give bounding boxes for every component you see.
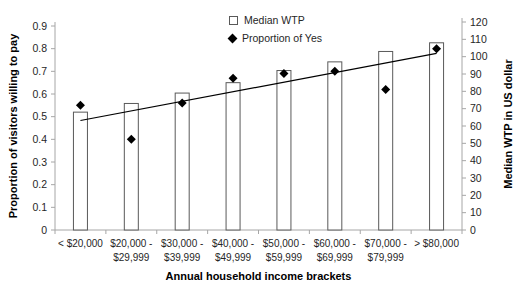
left-axis-title: Proportion of visitors willing to pay [7, 34, 19, 219]
left-axis-tick-label: 0.6 [32, 88, 47, 100]
open-square-marker-icon [229, 16, 238, 25]
left-axis-tick-label: 0.7 [32, 65, 47, 77]
right-axis-tick-label: 20 [470, 189, 482, 201]
category-label: $50,000 - [263, 238, 305, 249]
right-axis-tick-label: 120 [470, 16, 488, 28]
median-wtp-bar [226, 83, 240, 230]
proportion-of-yes-marker [229, 74, 238, 83]
right-axis-tick-label: 30 [470, 172, 482, 184]
right-axis-tick-label: 60 [470, 120, 482, 132]
right-axis-tick-label: 80 [470, 85, 482, 97]
category-label: $70,000 - [365, 238, 407, 249]
median-wtp-bar [328, 62, 342, 230]
chart-container: 00.10.20.30.40.50.60.70.80.9010203040506… [0, 0, 525, 298]
legend-label-proportion-of-yes: Proportion of Yes [242, 32, 322, 44]
left-axis-tick-label: 0.4 [32, 133, 47, 145]
x-axis-title: Annual household income brackets [0, 270, 517, 282]
right-axis-tick-label: 100 [470, 50, 488, 62]
filled-diamond-marker-icon [228, 33, 238, 43]
median-wtp-bar [277, 71, 291, 230]
left-axis-tick-label: 0 [41, 224, 47, 236]
median-wtp-bar [124, 103, 138, 230]
right-axis-tick-label: 40 [470, 154, 482, 166]
left-axis-tick-label: 0.1 [32, 201, 47, 213]
legend: Median WTP Proportion of Yes [229, 13, 322, 45]
median-wtp-bar [430, 43, 444, 230]
median-wtp-bar [379, 51, 393, 230]
left-axis-tick-label: 0.3 [32, 156, 47, 168]
category-label: $20,000 - [110, 238, 152, 249]
legend-item-median-wtp: Median WTP [229, 13, 322, 27]
left-axis-tick-label: 0.8 [32, 42, 47, 54]
left-axis-tick-label: 0.5 [32, 110, 47, 122]
right-axis-tick-label: 0 [470, 224, 476, 236]
category-label: $60,000 - [314, 238, 356, 249]
category-label: $79,999 [368, 252, 405, 263]
category-label: $29,999 [113, 252, 150, 263]
category-label: $30,000 - [161, 238, 203, 249]
category-label: < $20,000 [58, 238, 103, 249]
category-label: > $80,000 [414, 238, 459, 249]
median-wtp-bar [73, 112, 87, 230]
right-axis-title: Median WTP in US dollar [502, 59, 514, 188]
right-axis-tick-label: 50 [470, 137, 482, 149]
right-axis-tick-label: 110 [470, 33, 487, 45]
category-label: $69,999 [317, 252, 354, 263]
category-label: $39,999 [164, 252, 201, 263]
legend-label-median-wtp: Median WTP [244, 14, 305, 26]
legend-item-proportion-of-yes: Proportion of Yes [229, 31, 322, 45]
right-axis-tick-label: 10 [470, 206, 482, 218]
right-axis-tick-label: 90 [470, 68, 482, 80]
right-axis-tick-label: 70 [470, 102, 482, 114]
category-label: $40,000 - [212, 238, 254, 249]
proportion-of-yes-marker [76, 101, 85, 110]
left-axis-tick-label: 0.2 [32, 178, 47, 190]
category-label: $59,999 [266, 252, 303, 263]
left-axis-tick-label: 0.9 [32, 20, 47, 32]
median-wtp-bar [175, 93, 189, 230]
category-label: $49,999 [215, 252, 252, 263]
